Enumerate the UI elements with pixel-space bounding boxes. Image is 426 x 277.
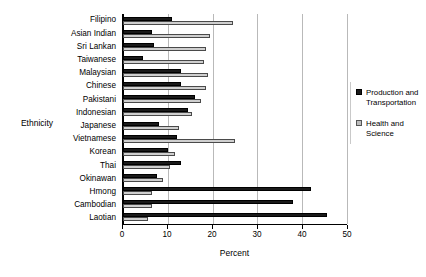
x-tick-label: 40	[297, 230, 306, 239]
bar-health-science	[123, 60, 204, 64]
bar-health-science	[123, 152, 175, 156]
bar-row	[123, 132, 347, 145]
x-tick-label: 10	[162, 230, 171, 239]
category-label: Malaysian	[62, 67, 119, 80]
category-label: Hmong	[62, 185, 119, 198]
bar-health-science	[123, 126, 179, 130]
x-tick	[257, 225, 258, 229]
bar-row	[123, 198, 347, 211]
x-tick	[347, 225, 348, 229]
category-label: Thai	[62, 159, 119, 172]
x-tick	[212, 225, 213, 229]
category-label: Taiwanese	[62, 54, 119, 67]
bar-row	[123, 14, 347, 27]
legend-label: Health and Science	[366, 119, 424, 139]
bar-production-transportation	[123, 213, 327, 217]
y-axis-title: Ethnicity	[6, 118, 68, 128]
x-tick-label: 50	[342, 230, 351, 239]
category-label: Vietnamese	[62, 133, 119, 146]
bar-health-science	[123, 99, 201, 103]
chart-legend: Production and TransportationHealth and …	[356, 88, 424, 150]
legend-swatch-health-science	[356, 120, 362, 126]
x-axis-title: Percent	[122, 248, 347, 258]
plot-area	[122, 14, 347, 225]
bar-row	[123, 93, 347, 106]
category-axis-labels: FilipinoAsian IndianSri LankanTaiwaneseM…	[62, 14, 119, 225]
category-label: Pakistani	[62, 93, 119, 106]
category-label: Laotian	[62, 212, 119, 225]
legend-swatch-production-transportation	[356, 89, 362, 95]
bar-health-science	[123, 139, 235, 143]
bar-row	[123, 27, 347, 40]
x-tick	[122, 225, 123, 229]
ethnicity-occupation-bar-chart: Ethnicity FilipinoAsian IndianSri Lankan…	[0, 0, 426, 277]
bar-health-science	[123, 191, 152, 195]
bar-row	[123, 185, 347, 198]
bar-row	[123, 145, 347, 158]
legend-label: Production and Transportation	[366, 88, 424, 108]
bar-health-science	[123, 34, 210, 38]
bar-row	[123, 80, 347, 93]
bar-health-science	[123, 21, 233, 25]
legend-entry: Health and Science	[356, 119, 424, 139]
legend-entry: Production and Transportation	[356, 88, 424, 108]
bar-row	[123, 53, 347, 66]
category-label: Cambodian	[62, 199, 119, 212]
bar-row	[123, 158, 347, 171]
bar-row	[123, 106, 347, 119]
category-label: Asian Indian	[62, 27, 119, 40]
category-label: Chinese	[62, 80, 119, 93]
category-label: Indonesian	[62, 106, 119, 119]
x-tick-label: 30	[252, 230, 261, 239]
bar-row	[123, 40, 347, 53]
bar-row	[123, 119, 347, 132]
bar-health-science	[123, 73, 208, 77]
bar-health-science	[123, 112, 192, 116]
bar-row	[123, 172, 347, 185]
x-axis-tick-labels: 01020304050	[122, 230, 347, 242]
bar-rows	[123, 14, 347, 224]
bar-health-science	[123, 47, 206, 51]
bar-health-science	[123, 86, 206, 90]
x-tick	[167, 225, 168, 229]
bar-row	[123, 67, 347, 80]
category-label: Filipino	[62, 14, 119, 27]
x-tick-label: 0	[120, 230, 125, 239]
bar-health-science	[123, 178, 163, 182]
gridline	[347, 14, 348, 224]
legend-divider	[350, 82, 351, 144]
category-label: Okinawan	[62, 172, 119, 185]
category-label: Sri Lankan	[62, 40, 119, 53]
x-tick	[302, 225, 303, 229]
bar-row	[123, 211, 347, 224]
bar-health-science	[123, 165, 170, 169]
x-tick-label: 20	[207, 230, 216, 239]
bar-health-science	[123, 217, 148, 221]
category-label: Japanese	[62, 120, 119, 133]
bar-health-science	[123, 204, 152, 208]
category-label: Korean	[62, 146, 119, 159]
